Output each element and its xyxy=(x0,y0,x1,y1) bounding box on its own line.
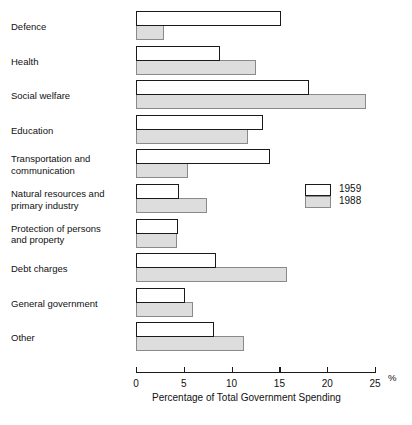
legend-swatch-1988 xyxy=(305,196,331,208)
category-label: Education xyxy=(11,125,133,137)
category-label: Protection of persons and property xyxy=(11,223,133,246)
legend-label-1959: 1959 xyxy=(339,183,361,195)
axis-tick xyxy=(279,367,280,373)
category-label: Other xyxy=(11,332,133,344)
category-label: Social welfare xyxy=(11,90,133,102)
bar-1988 xyxy=(136,129,248,144)
bar-1959 xyxy=(136,288,185,303)
bar-1959 xyxy=(136,253,216,268)
axis-tick-label: 20 xyxy=(322,378,333,389)
bar-1959 xyxy=(136,184,179,199)
category-label: Natural resources and primary industry xyxy=(11,188,133,211)
axis-tick xyxy=(375,367,376,373)
x-axis-title: Percentage of Total Government Spending xyxy=(152,392,341,403)
bar-chart: DefenceHealthSocial welfareEducationTran… xyxy=(0,0,412,425)
axis-tick-label: 15 xyxy=(274,378,285,389)
axis-tick-label: 25 xyxy=(369,378,380,389)
legend-swatch-1959 xyxy=(305,184,331,196)
category-label: Debt charges xyxy=(11,263,133,275)
category-label: Defence xyxy=(11,21,133,33)
bar-1988 xyxy=(136,233,177,248)
axis-tick xyxy=(184,367,185,373)
axis-tick-label: 10 xyxy=(226,378,237,389)
axis-unit-symbol: % xyxy=(388,372,396,383)
bar-1988 xyxy=(136,267,287,282)
category-label: General government xyxy=(11,298,133,310)
category-label: Health xyxy=(11,56,133,68)
bar-1959 xyxy=(136,219,178,234)
axis-tick-label: 5 xyxy=(181,378,187,389)
bar-1988 xyxy=(136,302,193,317)
bar-1988 xyxy=(136,60,256,75)
axis-tick xyxy=(327,367,328,373)
axis-tick xyxy=(232,367,233,373)
bar-1959 xyxy=(136,115,263,130)
axis-tick-label: 0 xyxy=(133,378,139,389)
bar-1959 xyxy=(136,322,214,337)
bar-1959 xyxy=(136,149,270,164)
bar-1959 xyxy=(136,80,309,95)
legend-label-1988: 1988 xyxy=(339,195,361,207)
bar-1988 xyxy=(136,336,244,351)
category-label: Transportation and communication xyxy=(11,153,133,176)
bar-1988 xyxy=(136,198,207,213)
bar-1959 xyxy=(136,11,281,26)
bar-1959 xyxy=(136,46,220,61)
axis-baseline xyxy=(136,372,375,373)
axis-tick xyxy=(136,367,137,373)
bar-1988 xyxy=(136,163,188,178)
bar-1988 xyxy=(136,25,164,40)
bar-1988 xyxy=(136,94,366,109)
